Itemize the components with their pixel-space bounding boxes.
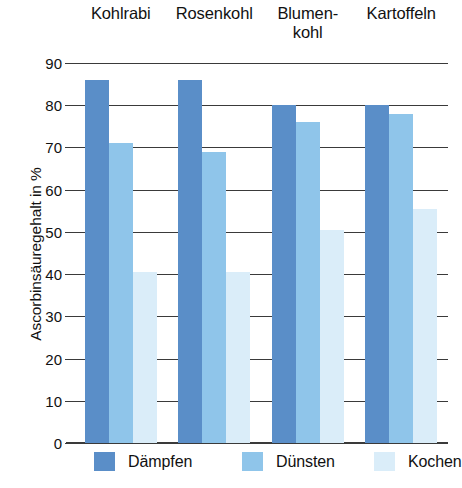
legend-item: Dämpfen (94, 452, 192, 471)
bar (202, 152, 226, 443)
bar (296, 122, 320, 443)
legend-swatch (94, 452, 115, 471)
bar (178, 80, 202, 443)
category-label: Kartoffeln (343, 4, 461, 23)
plot-area: 0102030405060708090 (74, 63, 448, 443)
chart-legend: DämpfenDünstenKochen (74, 452, 448, 478)
bar (413, 209, 437, 443)
gridline (74, 63, 448, 64)
y-axis-tick (65, 359, 74, 360)
legend-label: Dämpfen (128, 453, 192, 471)
legend-swatch (242, 452, 263, 471)
y-axis-tick-label: 40 (2, 266, 62, 283)
bar (272, 105, 296, 443)
category-label-row: KohlrabiRosenkohlBlumen- kohlKartoffeln (74, 4, 448, 56)
y-axis-tick-label: 30 (2, 308, 62, 325)
legend-item: Kochen (374, 452, 462, 471)
y-axis-tick (65, 401, 74, 402)
y-axis-tick (65, 443, 74, 444)
y-axis-tick-label: 10 (2, 392, 62, 409)
y-axis-tick (65, 147, 74, 148)
legend-label: Dünsten (276, 453, 335, 471)
y-axis-tick (65, 316, 74, 317)
y-axis-tick-label: 90 (2, 55, 62, 72)
bar (320, 230, 344, 443)
y-axis-tick (65, 105, 74, 106)
bar (365, 105, 389, 443)
y-axis-tick (65, 274, 74, 275)
legend-label: Kochen (408, 453, 462, 471)
y-axis-tick-label: 20 (2, 350, 62, 367)
bar (389, 114, 413, 443)
y-axis-tick (65, 63, 74, 64)
y-axis-tick (65, 190, 74, 191)
legend-swatch (374, 452, 395, 471)
bar (85, 80, 109, 443)
gridline (74, 105, 448, 106)
legend-item: Dünsten (242, 452, 335, 471)
y-axis-tick-label: 80 (2, 97, 62, 114)
bar (226, 272, 250, 443)
y-axis-tick-label: 70 (2, 139, 62, 156)
bar (109, 143, 133, 443)
y-axis-tick (65, 232, 74, 233)
y-axis-tick-label: 60 (2, 181, 62, 198)
y-axis-tick-label: 50 (2, 223, 62, 240)
y-axis-tick-label: 0 (2, 435, 62, 452)
bar (133, 272, 157, 443)
